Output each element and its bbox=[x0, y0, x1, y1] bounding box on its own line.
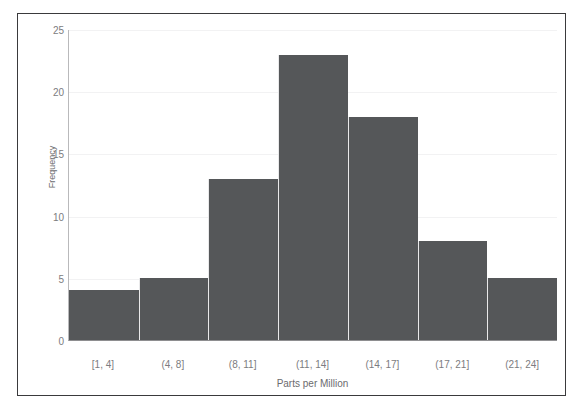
histogram-bar[interactable] bbox=[418, 241, 488, 340]
y-axis-tick-label: 15 bbox=[53, 149, 64, 160]
x-axis-tick-label: (14, 17] bbox=[347, 359, 417, 375]
scan-artifact-strip bbox=[0, 0, 583, 9]
histogram-bar[interactable] bbox=[348, 117, 418, 340]
chart-frame: Frequency 0510152025 [1, 4](4, 8](8, 11]… bbox=[17, 13, 566, 396]
y-axis-tick-labels: 0510152025 bbox=[42, 14, 64, 395]
x-axis-tick-label: (11, 14] bbox=[278, 359, 348, 375]
bar-cell bbox=[69, 30, 139, 340]
histogram-bar[interactable] bbox=[69, 290, 139, 340]
histogram-bar[interactable] bbox=[139, 278, 209, 340]
x-axis-tick-label: (8, 11] bbox=[208, 359, 278, 375]
bar-cell bbox=[139, 30, 209, 340]
bar-cell bbox=[208, 30, 278, 340]
histogram-bar[interactable] bbox=[278, 55, 348, 340]
y-axis-tick-label: 5 bbox=[58, 273, 64, 284]
x-axis-tick-label: (4, 8] bbox=[138, 359, 208, 375]
y-axis-tick-label: 20 bbox=[53, 87, 64, 98]
histogram-bar[interactable] bbox=[208, 179, 278, 340]
plot-area bbox=[68, 30, 557, 341]
histogram-bar[interactable] bbox=[487, 278, 557, 340]
bar-cell bbox=[418, 30, 488, 340]
x-axis-title: Parts per Million bbox=[68, 378, 557, 389]
y-axis-tick-label: 0 bbox=[58, 336, 64, 347]
x-axis-tick-label: (17, 21] bbox=[417, 359, 487, 375]
y-axis-tick-label: 10 bbox=[53, 211, 64, 222]
histogram-plot: Frequency 0510152025 [1, 4](4, 8](8, 11]… bbox=[18, 14, 565, 395]
bar-cell bbox=[348, 30, 418, 340]
x-axis-tick-label: [1, 4] bbox=[68, 359, 138, 375]
bar-cell bbox=[278, 30, 348, 340]
x-axis-tick-labels: [1, 4](4, 8](8, 11](11, 14](14, 17](17, … bbox=[68, 359, 557, 375]
bar-cell bbox=[487, 30, 557, 340]
y-axis-tick-label: 25 bbox=[53, 25, 64, 36]
bar-series bbox=[69, 30, 557, 340]
x-axis-tick-label: (21, 24] bbox=[487, 359, 557, 375]
